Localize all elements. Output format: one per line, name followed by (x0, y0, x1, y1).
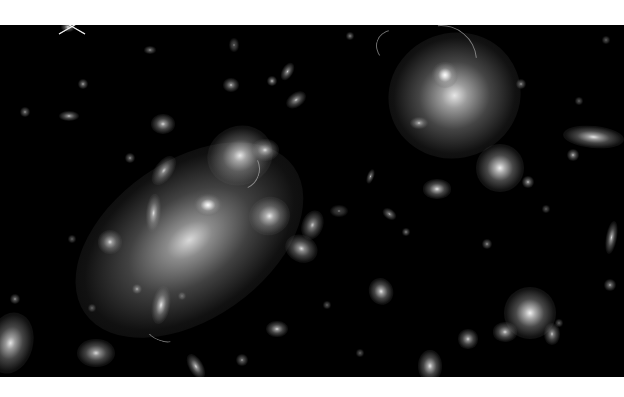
galaxy (604, 279, 616, 291)
galaxy (575, 97, 582, 104)
galaxy (283, 88, 309, 112)
galaxy (458, 329, 477, 348)
galaxy (423, 179, 450, 198)
galaxy (68, 235, 75, 242)
galaxy (542, 205, 549, 212)
galaxy (194, 194, 223, 216)
galaxy (236, 354, 248, 366)
galaxy (365, 274, 396, 307)
galaxy (555, 319, 562, 326)
galaxy (267, 76, 277, 86)
galaxy (132, 284, 142, 294)
galaxy (544, 323, 560, 345)
galaxy (144, 46, 156, 53)
galaxy (482, 239, 492, 249)
galaxy (59, 111, 79, 121)
galaxy (10, 294, 20, 304)
galaxy (229, 38, 239, 53)
galaxy (266, 321, 288, 337)
galaxy (603, 220, 619, 254)
galaxy (476, 144, 524, 192)
galaxy (223, 78, 239, 92)
galaxy (562, 123, 624, 151)
galaxy (77, 339, 115, 368)
galaxy (493, 322, 517, 341)
galaxy (418, 350, 442, 377)
galaxy (330, 205, 347, 217)
galaxy (356, 349, 363, 356)
galaxy (278, 61, 297, 83)
galaxy (522, 176, 534, 188)
galaxy (323, 301, 330, 308)
galaxy (365, 168, 377, 185)
galaxy (346, 32, 353, 39)
galaxy (78, 79, 88, 89)
galaxy (151, 114, 175, 135)
galaxy (20, 107, 30, 117)
galaxy (602, 36, 609, 43)
galaxy (567, 149, 579, 161)
galaxy-cluster-image (0, 25, 624, 377)
galaxy (183, 352, 208, 377)
galaxy (380, 206, 398, 223)
galaxy (516, 79, 526, 89)
galaxy (125, 153, 135, 163)
galaxy (402, 228, 409, 235)
galaxy (0, 307, 40, 377)
